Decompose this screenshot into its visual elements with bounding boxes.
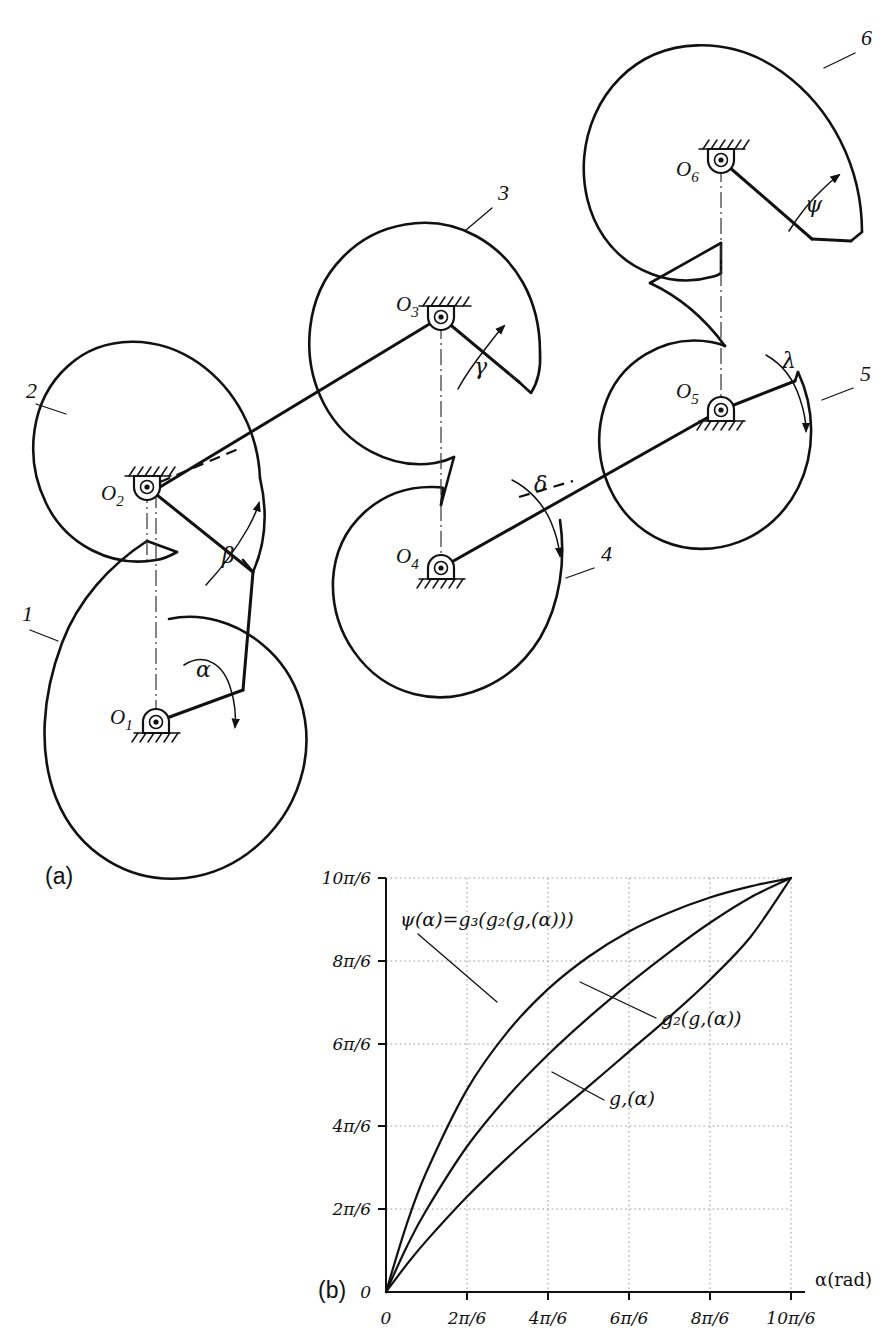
link-label-4: 4 (601, 541, 612, 566)
leader-link-6 (824, 53, 855, 68)
leader-psi (418, 934, 497, 1002)
x-tick-5: 10π/6 (766, 1308, 816, 1328)
link-label-6: 6 (861, 25, 872, 50)
joint-label-O2: O2 (101, 481, 124, 509)
cam-link-5 (599, 243, 811, 549)
part-caption-b: (b) (318, 1277, 346, 1303)
y-tick-3: 6π/6 (332, 1034, 371, 1054)
link-label-3: 3 (497, 180, 509, 205)
joint-label-O3: O3 (396, 292, 419, 320)
cam-link-1 (45, 541, 307, 879)
angle-label-psi: ψ (805, 192, 823, 217)
curve-g1 (386, 878, 791, 1292)
dashed-couplers (160, 447, 573, 497)
y-tick-4: 8π/6 (332, 951, 371, 971)
chart-annotation-leaders (418, 934, 656, 1100)
link-leader-lines (30, 53, 855, 641)
leader-link-1 (30, 630, 58, 641)
angle-label-lambda: λ (781, 348, 796, 373)
x-tick-3: 6π/6 (610, 1308, 649, 1328)
technical-figure: 1 2 3 4 5 6 O1 O2 O3 O4 O5 O6 α β γ δ λ … (0, 0, 891, 1344)
link-label-1: 1 (22, 601, 33, 626)
x-axis-title: α(rad) (815, 1269, 872, 1290)
chart-gridlines-vertical (467, 878, 791, 1292)
angle-label-delta: δ (534, 472, 547, 497)
mechanism-diagram: 1 2 3 4 5 6 O1 O2 O3 O4 O5 O6 α β γ δ λ … (22, 25, 872, 879)
joint-label-O6: O6 (676, 157, 699, 185)
leader-g2g1 (580, 982, 656, 1018)
y-tick-1: 2π/6 (331, 1199, 371, 1219)
angle-label-alpha: α (196, 657, 211, 682)
x-tick-1: 2π/6 (447, 1308, 487, 1328)
pivot-O1 (132, 709, 180, 742)
x-tick-2: 4π/6 (528, 1308, 568, 1328)
joint-label-O5: O5 (676, 379, 699, 407)
transmission-chart: ψ(α)=g₃(g₂(g,(α))) g₂(g,(α)) g,(α) 0 2π/… (322, 868, 872, 1328)
joint-label-O4: O4 (396, 544, 419, 572)
leader-link-5 (822, 388, 853, 400)
joint-label-O1: O1 (110, 705, 133, 733)
annotation-g2g1: g₂(g,(α)) (661, 1007, 741, 1029)
link-label-2: 2 (26, 378, 37, 403)
angle-label-beta: β (221, 543, 235, 568)
x-tick-0: 0 (381, 1308, 392, 1328)
y-tick-2: 4π/6 (331, 1116, 371, 1136)
annotation-psi: ψ(α)=g₃(g₂(g,(α))) (400, 908, 574, 930)
cam-link-3 (309, 223, 540, 505)
y-tick-0: 0 (360, 1282, 371, 1302)
angle-label-gamma: γ (474, 354, 488, 379)
y-tick-5: 10π/6 (322, 868, 372, 888)
annotation-g1: g,(α) (609, 1087, 655, 1109)
link-label-5: 5 (860, 361, 871, 386)
chart-curves (386, 878, 791, 1292)
x-tick-4: 8π/6 (691, 1308, 730, 1328)
pivot-O6 (699, 140, 749, 173)
centre-lines (147, 166, 721, 716)
chart-axes (378, 878, 805, 1300)
leader-link-4 (566, 568, 594, 578)
leader-link-3 (466, 208, 492, 230)
part-caption-a: (a) (45, 863, 73, 889)
figure-root: 1 2 3 4 5 6 O1 O2 O3 O4 O5 O6 α β γ δ λ … (0, 0, 891, 1344)
cam-link-2 (33, 342, 264, 572)
